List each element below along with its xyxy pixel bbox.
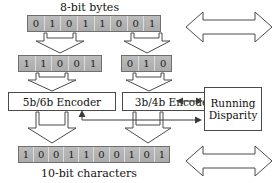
funnel-arrow-encoder-to-characters-left xyxy=(28,112,76,143)
disparity-feedback-line xyxy=(82,115,197,120)
funnel-arrow-encoder-to-characters-right xyxy=(125,112,171,143)
connector-layer xyxy=(0,0,275,183)
disparity-feedback-arrowhead-right xyxy=(195,117,202,124)
encoder-disparity-arrowhead-right xyxy=(196,98,203,105)
encoding-diagram: 8-bit bytes 10-bit characters 01011001 1… xyxy=(0,0,275,183)
encoder-disparity-arrowhead-left xyxy=(176,98,183,105)
funnel-arrow-to-5b6b-encoder xyxy=(28,73,76,91)
disparity-feedback-arrowhead-up xyxy=(79,110,86,117)
buffer-block-arrow xyxy=(186,12,272,42)
serdes-block-arrow xyxy=(186,146,272,176)
funnel-arrow-to-3bit xyxy=(124,33,170,53)
funnel-arrow-to-3b4b-encoder xyxy=(126,73,172,91)
funnel-arrow-to-5bit xyxy=(36,33,84,53)
